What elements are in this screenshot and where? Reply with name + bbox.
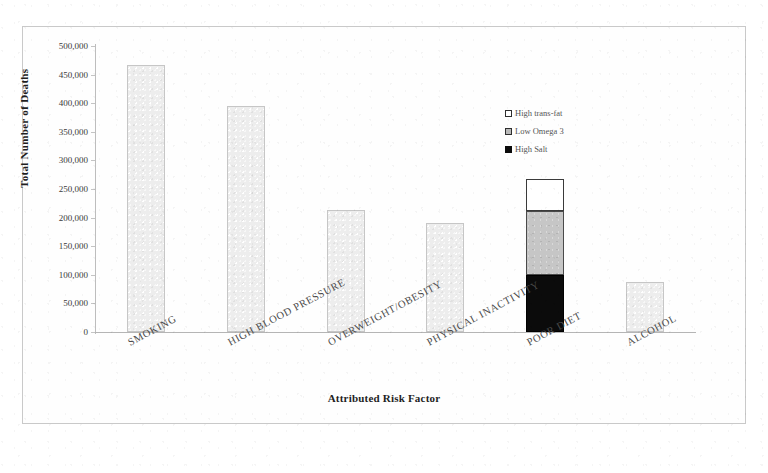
bar-segment-low-omega-3[interactable] [526, 211, 564, 275]
bar-segment-high-trans-fat[interactable] [526, 179, 564, 211]
y-axis-tick-mark [91, 246, 95, 247]
y-axis-tick-mark [91, 275, 95, 276]
bar-segment[interactable] [227, 106, 265, 332]
legend-swatch-icon [505, 110, 512, 117]
y-axis-tick-label: 350,000 [0, 127, 88, 137]
y-axis-tick-label: 400,000 [0, 98, 88, 108]
legend-label: Low Omega 3 [515, 127, 564, 136]
y-axis-tick-label: 250,000 [0, 184, 88, 194]
y-axis-tick-mark [91, 332, 95, 333]
bar-segment[interactable] [127, 65, 165, 332]
y-axis-tick-label: 150,000 [0, 241, 88, 251]
y-axis-tick-label: 50,000 [0, 298, 88, 308]
y-axis-tick-mark [91, 132, 95, 133]
y-axis-tick-label: 300,000 [0, 155, 88, 165]
y-axis-tick-label: 450,000 [0, 70, 88, 80]
bar-physical-inactivity[interactable] [426, 223, 464, 332]
y-axis-line [95, 44, 96, 334]
x-axis-line [95, 332, 696, 333]
y-axis-tick-mark [91, 160, 95, 161]
y-axis-tick-label: 0 [0, 327, 88, 337]
x-axis-title: Attributed Risk Factor [0, 392, 768, 404]
legend-item-low-omega-3[interactable]: Low Omega 3 [505, 122, 615, 140]
legend-swatch-icon [505, 128, 512, 135]
bar-poor-diet[interactable] [526, 179, 564, 332]
y-axis-tick-mark [91, 189, 95, 190]
y-axis-tick-mark [91, 303, 95, 304]
legend-item-high-trans-fat[interactable]: High trans-fat [505, 104, 615, 122]
bar-segment[interactable] [327, 210, 365, 332]
legend-swatch-icon [505, 146, 512, 153]
y-axis-tick-label: 500,000 [0, 41, 88, 51]
y-axis-tick-mark [91, 46, 95, 47]
legend-label: High trans-fat [515, 109, 562, 118]
bar-overweight-obesity[interactable] [327, 210, 365, 332]
bar-segment[interactable] [426, 223, 464, 332]
y-axis-tick-mark [91, 218, 95, 219]
legend-label: High Salt [515, 145, 547, 154]
y-axis-tick-mark [91, 75, 95, 76]
bar-high-blood-pressure[interactable] [227, 106, 265, 332]
y-axis-tick-label: 200,000 [0, 213, 88, 223]
chart-legend: High trans-fatLow Omega 3High Salt [505, 104, 615, 158]
bar-smoking[interactable] [127, 65, 165, 332]
y-axis-tick-label: 100,000 [0, 270, 88, 280]
y-axis-tick-mark [91, 103, 95, 104]
legend-item-high-salt[interactable]: High Salt [505, 140, 615, 158]
